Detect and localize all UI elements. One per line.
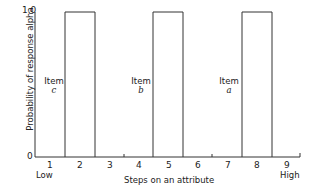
y-axis-label: Probability of response alpha xyxy=(25,6,35,132)
x-tick-1: 1 xyxy=(47,160,53,170)
bar-step-8 xyxy=(242,12,272,157)
item-b-annotation: Item b xyxy=(131,77,151,95)
x-tick-9: 9 xyxy=(284,160,290,170)
x-tick-5: 5 xyxy=(166,160,172,170)
bar-step-2 xyxy=(65,12,95,157)
x-tick-8: 8 xyxy=(254,160,260,170)
x-axis-label: Steps on an attribute xyxy=(124,175,214,185)
x-tick-3: 3 xyxy=(107,160,113,170)
item-a-annotation: Item a xyxy=(219,77,239,95)
x-tick-2: 2 xyxy=(77,160,83,170)
x-high-label: High xyxy=(280,170,300,180)
x-tick-6: 6 xyxy=(195,160,201,170)
x-low-label: Low xyxy=(36,170,53,180)
x-tick-7: 7 xyxy=(225,160,231,170)
x-tick-4: 4 xyxy=(136,160,142,170)
bar-step-5 xyxy=(153,12,183,157)
y-tick-zero: 0 xyxy=(27,151,33,161)
item-c-annotation: Item c xyxy=(44,77,64,95)
